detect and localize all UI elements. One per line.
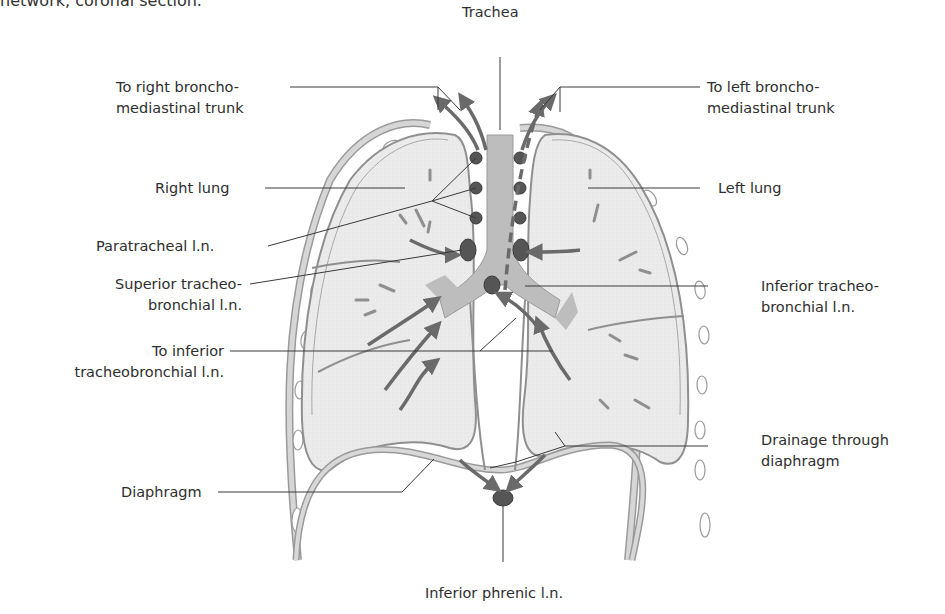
diaphragm-shape bbox=[296, 445, 643, 560]
left-paratracheal-node-3 bbox=[514, 212, 526, 224]
label-right-lung: Right lung bbox=[155, 178, 229, 199]
superior-tracheobronchial-node-right bbox=[460, 239, 476, 261]
label-trachea: Trachea bbox=[462, 2, 519, 23]
label-drainage-through-diaphragm: Drainage through diaphragm bbox=[761, 430, 889, 472]
label-inferior-phrenic: Inferior phrenic l.n. bbox=[425, 583, 563, 604]
label-to-left-trunk: To left broncho- mediastinal trunk bbox=[707, 77, 835, 119]
label-diaphragm: Diaphragm bbox=[121, 482, 202, 503]
label-to-inferior-tracheobronchial: To inferior tracheobronchial l.n. bbox=[36, 341, 224, 383]
label-superior-tracheobronchial: Superior tracheo- bronchial l.n. bbox=[66, 274, 242, 316]
superior-tracheobronchial-node-left bbox=[513, 239, 529, 261]
label-paratracheal: Paratracheal l.n. bbox=[96, 236, 214, 257]
inferior-phrenic-node bbox=[493, 490, 513, 506]
inferior-tracheobronchial-node bbox=[484, 276, 500, 294]
label-inferior-tracheobronchial: Inferior tracheo- bronchial l.n. bbox=[761, 276, 879, 318]
label-left-lung: Left lung bbox=[718, 178, 782, 199]
label-to-right-trunk: To right broncho- mediastinal trunk bbox=[116, 77, 244, 119]
